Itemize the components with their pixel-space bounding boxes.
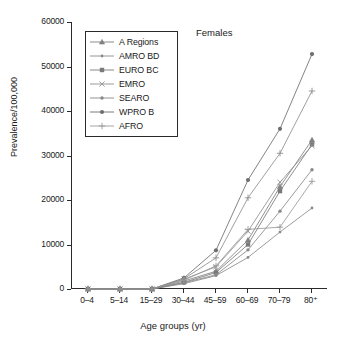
y-tick-label: 30000 bbox=[0, 150, 64, 160]
legend-item-euro-bc[interactable]: EURO BC bbox=[89, 63, 173, 77]
y-tick-label: 60000 bbox=[0, 16, 64, 26]
chart-figure: Prevalence/100,000 Females 0100002000030… bbox=[0, 0, 346, 346]
x-tick-mark bbox=[247, 289, 248, 293]
legend-label: AFRO bbox=[119, 121, 143, 131]
data-point-small-dot bbox=[247, 256, 250, 259]
data-point-dot bbox=[278, 209, 281, 212]
legend-item-a-regions[interactable]: A Regions bbox=[89, 35, 173, 49]
x-tick-label: 80⁺ bbox=[291, 295, 331, 305]
series-line bbox=[88, 181, 312, 289]
data-point-small-dot bbox=[311, 207, 314, 210]
data-point-filled-circle bbox=[310, 52, 314, 56]
legend-label: WPRO B bbox=[119, 107, 154, 117]
data-point-plus bbox=[213, 255, 219, 261]
data-point-dot bbox=[100, 96, 103, 99]
series-line bbox=[88, 208, 312, 289]
data-point-dot bbox=[246, 248, 249, 251]
data-point-square bbox=[100, 68, 104, 72]
x-tick-mark bbox=[183, 289, 184, 293]
y-tick-label: 0 bbox=[0, 283, 64, 293]
y-tick-label: 50000 bbox=[0, 61, 64, 71]
data-point-small-dot bbox=[279, 231, 282, 234]
legend-swatch-square-icon bbox=[89, 64, 115, 76]
data-point-dot bbox=[310, 168, 313, 171]
data-point-filled-circle bbox=[246, 178, 250, 182]
legend-swatch-plus-icon bbox=[89, 120, 115, 132]
data-point-small-dot bbox=[101, 55, 104, 58]
legend-label: EURO BC bbox=[119, 65, 158, 75]
legend-swatch-filled-circle-icon bbox=[89, 106, 115, 118]
legend-label: EMRO bbox=[119, 79, 145, 89]
series-line bbox=[88, 146, 312, 289]
y-tick-label: 10000 bbox=[0, 239, 64, 249]
data-point-filled-circle bbox=[100, 110, 104, 114]
data-point-filled-circle bbox=[214, 248, 218, 252]
x-axis-label: Age groups (yr) bbox=[0, 320, 346, 331]
y-tick-label: 20000 bbox=[0, 194, 64, 204]
data-point-plus bbox=[309, 88, 315, 94]
data-point-square bbox=[246, 242, 250, 246]
legend-item-emro[interactable]: EMRO bbox=[89, 77, 173, 91]
legend-label: SEARO bbox=[119, 93, 149, 103]
data-point-plus bbox=[277, 150, 283, 156]
data-point-plus bbox=[245, 195, 251, 201]
data-point-square bbox=[278, 189, 282, 193]
series-line bbox=[88, 144, 312, 289]
series-line bbox=[88, 140, 312, 289]
data-point-triangle bbox=[309, 137, 314, 142]
y-tick-label: 40000 bbox=[0, 105, 64, 115]
legend-swatch-dot-icon bbox=[89, 92, 115, 104]
legend-item-wpro-b[interactable]: WPRO B bbox=[89, 105, 173, 119]
x-tick-mark bbox=[311, 289, 312, 293]
y-tick-mark bbox=[67, 289, 71, 290]
data-point-plus bbox=[309, 178, 315, 184]
data-point-plus bbox=[99, 123, 105, 129]
legend-swatch-triangle-icon bbox=[89, 36, 115, 48]
legend-swatch-cross-x-icon bbox=[89, 78, 115, 90]
data-point-dot bbox=[214, 273, 217, 276]
legend-box: A RegionsAMRO BDEURO BCEMROSEAROWPRO BAF… bbox=[85, 31, 178, 137]
data-point-plus bbox=[277, 224, 283, 230]
legend-item-amro-bd[interactable]: AMRO BD bbox=[89, 49, 173, 63]
x-tick-mark bbox=[279, 289, 280, 293]
x-tick-mark bbox=[215, 289, 216, 293]
legend-item-searo[interactable]: SEARO bbox=[89, 91, 173, 105]
legend-item-afro[interactable]: AFRO bbox=[89, 119, 173, 133]
legend-label: A Regions bbox=[119, 37, 158, 47]
legend-label: AMRO BD bbox=[119, 51, 159, 61]
legend-swatch-small-dot-icon bbox=[89, 50, 115, 62]
data-point-filled-circle bbox=[278, 127, 282, 131]
